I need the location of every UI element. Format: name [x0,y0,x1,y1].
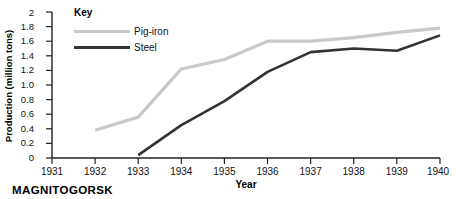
y-axis [46,12,52,158]
y-tick-labels: 0 0.2 0.4 0.6 0.8 1.0 1.2 1.4 1.6 1.8 2 [21,7,34,164]
x-axis-title: Year [235,179,256,190]
series-line-steel [138,35,440,155]
x-tick-labels: 1931 1932 1933 1934 1935 1936 1937 1938 … [41,166,450,177]
x-tick-label: 1939 [386,166,409,177]
legend-label-pig-iron: Pig-iron [134,26,168,37]
x-tick-label: 1938 [343,166,366,177]
y-tick-label: 1.6 [21,35,34,46]
y-tick-label: 0.8 [21,94,34,105]
x-tick-label: 1931 [41,166,64,177]
x-tick-label: 1932 [84,166,107,177]
y-tick-label: 1.4 [21,50,34,61]
y-tick-label: 1.0 [21,79,34,90]
y-axis-title: Production (million tons) [3,30,14,142]
x-tick-label: 1936 [256,166,279,177]
legend-title: Key [74,7,93,18]
chart-caption: MAGNITOGORSK [12,184,113,196]
y-tick-label: 1.8 [21,21,34,32]
legend: Key Pig-iron Steel [74,7,168,53]
y-tick-label: 0.6 [21,108,34,119]
y-tick-label: 0.4 [21,123,34,134]
x-tick-label: 1935 [213,166,236,177]
y-tick-label: 0 [29,152,34,163]
x-tick-label: 1937 [299,166,322,177]
chart-container: Production (million tons) 0 0.2 0.4 0.6 … [0,0,456,199]
y-axis-title-text: Production (million tons) [3,30,14,142]
x-axis [52,158,440,164]
x-tick-label: 1934 [170,166,193,177]
production-line-chart: Production (million tons) 0 0.2 0.4 0.6 … [0,0,456,199]
x-tick-label: 1933 [127,166,150,177]
y-tick-label: 0.2 [21,137,34,148]
y-tick-label: 1.2 [21,64,34,75]
x-tick-label: 1940 [427,166,450,177]
legend-label-steel: Steel [134,42,157,53]
y-tick-label: 2 [29,7,34,18]
